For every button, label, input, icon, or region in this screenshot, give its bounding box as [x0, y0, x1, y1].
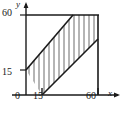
- figure-container: 60 15 0 15 60 x y: [0, 0, 122, 113]
- y-axis-arrow-icon: [24, 2, 29, 8]
- x-tick-label-15: 15: [33, 91, 43, 101]
- lower-diagonal-line: [42, 39, 98, 95]
- x-axis-label: x: [108, 89, 112, 98]
- y-tick-label-15: 15: [2, 67, 12, 77]
- upper-diagonal-line: [26, 15, 73, 70]
- y-tick-label-60: 60: [2, 8, 12, 18]
- y-axis-label: y: [16, 0, 20, 9]
- x-axis-arrow-icon: [114, 93, 120, 98]
- origin-label: 0: [15, 91, 20, 101]
- x-tick-label-60: 60: [86, 91, 96, 101]
